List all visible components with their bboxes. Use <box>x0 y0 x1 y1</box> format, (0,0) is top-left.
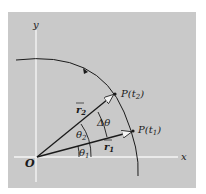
x-axis-label: x <box>181 151 187 162</box>
point-p-t1 <box>131 129 134 132</box>
svg-text:r2: r2 <box>76 104 86 117</box>
point-p-t1-label: P(t1) <box>137 124 161 137</box>
theta1-label: θ1 <box>79 147 90 160</box>
kinematics-diagram: y x O P(t2) P(t1) r2 r1 θ2 θ1 Δθ <box>0 0 206 194</box>
svg-text:r1: r1 <box>104 141 114 154</box>
y-axis-label: y <box>32 19 39 30</box>
point-p-t2 <box>113 92 116 95</box>
vector-r1-label: r1 <box>104 140 114 154</box>
point-p-t2-label: P(t2) <box>120 88 144 101</box>
vector-r2-label: r2 <box>76 103 86 117</box>
delta-theta-label: Δθ <box>96 117 110 128</box>
origin-label: O <box>25 157 35 170</box>
